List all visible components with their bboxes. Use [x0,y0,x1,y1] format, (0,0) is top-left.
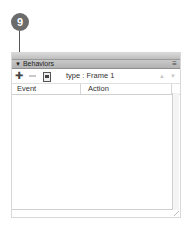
behaviors-list[interactable] [12,93,173,210]
panel-titlebar[interactable]: ▼Behaviors ≡ [12,60,180,69]
callout-badge: 9 [11,13,29,31]
behaviors-panel: ▼Behaviors ≡ ✚ type : Frame 1 ▲ ▼ Event … [11,52,181,218]
move-up-icon[interactable]: ▲ [159,69,165,83]
panel-drag-grip[interactable] [12,53,180,60]
behaviors-toolbar: ✚ type : Frame 1 ▲ ▼ [12,69,180,84]
panel-title: Behaviors [23,60,54,67]
vertical-scrollbar[interactable] [173,93,179,210]
panel-menu-icon[interactable]: ≡ [172,60,177,68]
target-type-label: type : Frame 1 [66,69,114,83]
symbol-instance-icon [43,72,51,82]
remove-behavior-icon[interactable] [29,75,36,77]
collapse-triangle-icon[interactable]: ▼ [15,61,21,67]
add-behavior-icon[interactable]: ✚ [15,69,23,83]
resize-handle-icon[interactable] [173,210,179,216]
move-down-icon[interactable]: ▼ [170,69,176,83]
